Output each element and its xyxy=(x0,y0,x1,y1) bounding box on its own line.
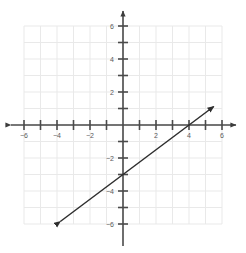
y-tick-label-pos4: 4 xyxy=(110,56,114,63)
plotted-line-series xyxy=(60,107,213,222)
coordinate-plane-figure: −6 −4 −2 2 4 6 6 4 2 −2 −4 −6 xyxy=(0,0,246,253)
x-tick-label-neg6: −6 xyxy=(20,132,28,139)
x-axis-tick-labels: −6 −4 −2 2 4 6 xyxy=(20,132,224,139)
axis-lines xyxy=(11,11,236,246)
x-tick-label-pos4: 4 xyxy=(187,132,191,139)
line-segment xyxy=(60,107,213,222)
x-tick-label-neg2: −2 xyxy=(86,132,94,139)
y-tick-label-pos2: 2 xyxy=(110,89,114,96)
y-tick-label-neg4: −4 xyxy=(106,188,114,195)
y-tick-label-neg6: −6 xyxy=(106,221,114,228)
x-tick-label-pos6: 6 xyxy=(220,132,224,139)
y-tick-label-pos6: 6 xyxy=(110,23,114,30)
x-tick-label-neg4: −4 xyxy=(53,132,61,139)
y-tick-label-neg2: −2 xyxy=(106,155,114,162)
x-tick-label-pos2: 2 xyxy=(154,132,158,139)
graph-canvas: −6 −4 −2 2 4 6 6 4 2 −2 −4 −6 xyxy=(0,0,246,253)
